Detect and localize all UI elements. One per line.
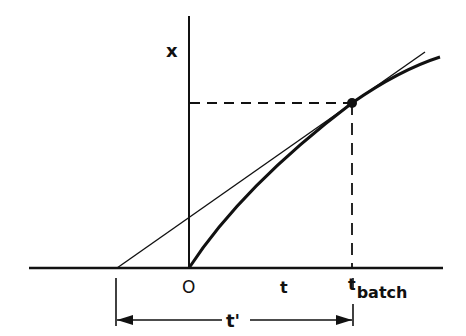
t-batch-subscript: batch (357, 283, 408, 302)
origin-label: O (182, 277, 195, 297)
arrow-right-icon (336, 315, 352, 325)
t-prime-label: t' (226, 310, 240, 331)
t-batch-main: t (348, 275, 356, 294)
t-batch-label: tbatch (348, 275, 407, 302)
x-axis-label: x (166, 40, 178, 61)
x-curve (189, 57, 440, 268)
tangent-point (347, 98, 357, 108)
arrow-left-icon (117, 315, 133, 325)
t-label: t (280, 278, 288, 297)
tangent-diagram: x O t tbatch t' (0, 0, 466, 336)
